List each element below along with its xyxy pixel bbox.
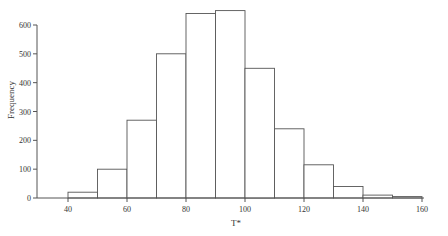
histogram-bar <box>245 68 275 198</box>
x-tick-label: 120 <box>298 205 310 214</box>
histogram-bar <box>157 54 187 198</box>
x-ticks: 406080100120140160 <box>64 198 428 214</box>
y-tick-label: 200 <box>19 136 31 145</box>
x-axis-label: T* <box>231 218 241 228</box>
x-tick-label: 40 <box>64 205 72 214</box>
histogram-bar <box>275 129 305 198</box>
y-tick-label: 400 <box>19 79 31 88</box>
histogram-bar <box>216 11 246 198</box>
x-tick-label: 160 <box>416 205 428 214</box>
y-ticks: 0100200300400500600 <box>19 21 37 203</box>
y-tick-label: 0 <box>27 194 31 203</box>
x-tick-label: 100 <box>239 205 251 214</box>
y-tick-label: 300 <box>19 108 31 117</box>
histogram-bar <box>186 14 216 199</box>
x-tick-label: 60 <box>123 205 131 214</box>
histogram-bar <box>98 169 128 198</box>
y-tick-label: 100 <box>19 165 31 174</box>
x-tick-label: 140 <box>357 205 369 214</box>
y-tick-label: 500 <box>19 50 31 59</box>
histogram-bar <box>68 192 98 198</box>
y-axis-label: Frequency <box>6 81 16 119</box>
histogram-bar <box>304 165 334 198</box>
histogram-chart: 0100200300400500600 406080100120140160 F… <box>0 0 448 236</box>
histogram-bar <box>334 187 364 199</box>
histogram-bars <box>68 11 422 199</box>
x-tick-label: 80 <box>182 205 190 214</box>
y-tick-label: 600 <box>19 21 31 30</box>
histogram-bar <box>127 120 157 198</box>
